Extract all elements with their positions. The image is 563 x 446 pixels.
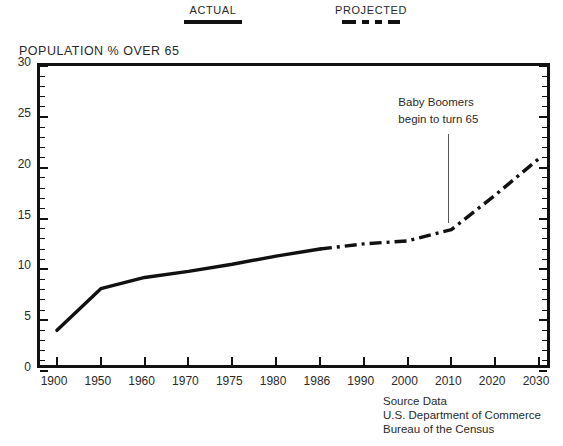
chart-legend: ACTUAL PROJECTED: [0, 0, 563, 42]
x-axis-tick-label: 1900: [30, 374, 78, 388]
annotation-line-1: Baby Boomers: [398, 94, 478, 111]
y-axis-tick-label: 30: [1, 55, 31, 69]
legend-label-actual: ACTUAL: [174, 4, 252, 16]
x-axis-tick-label: 1960: [118, 374, 166, 388]
source-note: Source Data U.S. Department of Commerce …: [383, 394, 541, 436]
chart-axis-title: POPULATION % OVER 65: [19, 44, 180, 58]
y-axis-tick-label: 0: [1, 360, 31, 374]
source-line-2: U.S. Department of Commerce: [383, 408, 541, 422]
x-axis-tick-label: 1970: [161, 374, 209, 388]
legend-entry-actual: ACTUAL: [174, 4, 252, 24]
y-axis-tick-label: 25: [1, 106, 31, 120]
x-axis-tick-label: 2000: [381, 374, 429, 388]
y-axis-tick-label: 5: [1, 309, 31, 323]
source-line-1: Source Data: [383, 394, 541, 408]
source-line-3: Bureau of the Census: [383, 422, 541, 436]
x-axis-tick-label: 1950: [74, 374, 122, 388]
y-axis-tick-label: 20: [1, 157, 31, 171]
y-axis-tick-label: 15: [1, 208, 31, 222]
legend-swatch-solid-line: [184, 20, 242, 24]
annotation-baby-boomers: Baby Boomers begin to turn 65: [398, 94, 478, 128]
x-axis-tick-label: 1986: [293, 374, 341, 388]
series-line-actual: [57, 249, 320, 330]
annotation-line-2: begin to turn 65: [398, 111, 478, 128]
x-axis-tick-label: 1975: [205, 374, 253, 388]
legend-label-projected: PROJECTED: [325, 4, 417, 16]
annotation-leader-line: [448, 134, 449, 223]
x-axis-tick-label: 1980: [249, 374, 297, 388]
x-axis-tick-label: 2020: [468, 374, 516, 388]
legend-entry-projected: PROJECTED: [325, 4, 417, 24]
x-axis-tick-label: 2030: [512, 374, 560, 388]
legend-swatch-dashdot-line: [342, 20, 400, 24]
x-axis-tick-label: 2010: [424, 374, 472, 388]
series-line-projected: [320, 159, 539, 249]
y-axis-tick-label: 10: [1, 258, 31, 272]
x-axis-tick-label: 1990: [337, 374, 385, 388]
